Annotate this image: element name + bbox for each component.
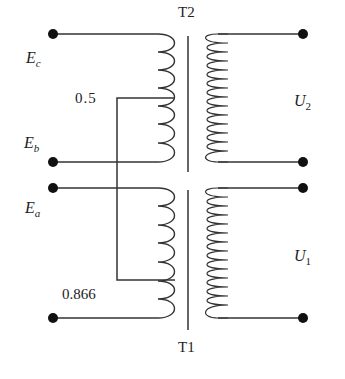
label-t2: T2 <box>178 4 195 20</box>
wires <box>53 34 175 318</box>
t1-secondary-coil <box>206 188 228 318</box>
label-ec: Ec <box>25 49 41 69</box>
terminal-u1-bottom <box>298 313 308 323</box>
terminal-eb <box>48 157 58 167</box>
terminals <box>48 29 308 323</box>
scott-transformer-diagram: T2 T1 Ec Eb Ea 0.5 0.866 U2 U1 <box>0 0 345 379</box>
label-tap-0-866: 0.866 <box>62 286 96 302</box>
terminal-u1-top <box>298 183 308 193</box>
terminal-ea <box>48 183 58 193</box>
terminal-ec <box>48 29 58 39</box>
label-eb: Eb <box>23 134 40 154</box>
secondary-wires <box>218 34 303 318</box>
terminal-t1-bottom <box>48 313 58 323</box>
terminal-u2-bottom <box>298 157 308 167</box>
label-u1: U1 <box>294 247 311 267</box>
label-u2: U2 <box>294 92 311 112</box>
t1-primary-coil <box>158 188 175 318</box>
terminal-u2-top <box>298 29 308 39</box>
label-t1: T1 <box>178 339 195 355</box>
label-tap-0-5: 0.5 <box>75 90 97 106</box>
label-ea: Ea <box>24 199 41 219</box>
t2-secondary-coil <box>206 34 228 162</box>
